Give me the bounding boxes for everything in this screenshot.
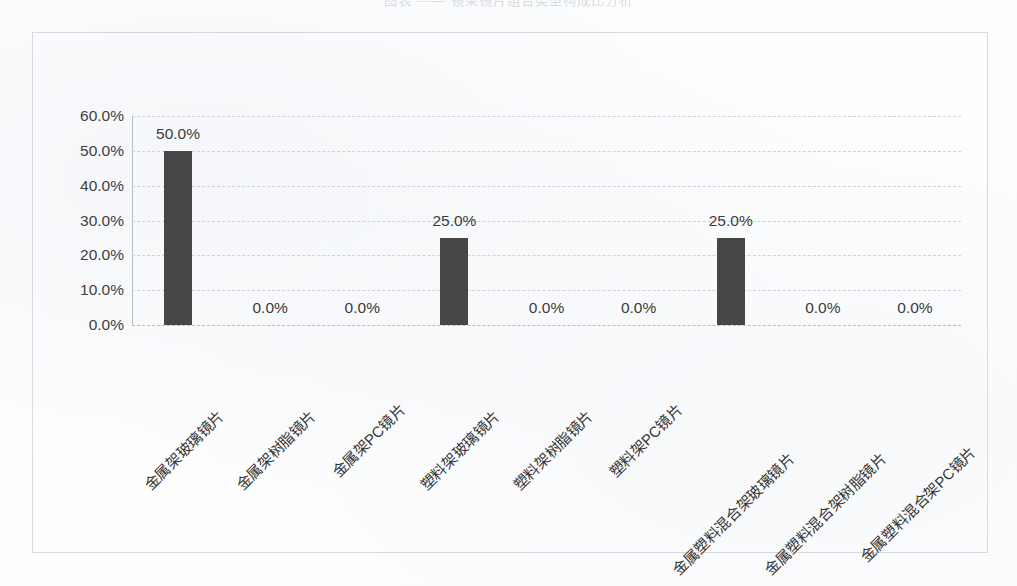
bar[interactable] (717, 238, 745, 325)
gridline (132, 186, 961, 187)
x-axis-category-label-text: 金属架树脂镜片 (231, 405, 320, 494)
bar[interactable] (164, 151, 192, 325)
x-axis-category-label-text: 塑料架PC镜片 (603, 399, 686, 482)
y-axis-tick-label: 60.0% (44, 107, 124, 125)
x-axis-category-label: 塑料架玻璃镜片 (485, 335, 574, 424)
gridline (132, 151, 961, 152)
gridline (132, 221, 961, 222)
x-axis-category-label-text: 塑料架树脂镜片 (507, 405, 596, 494)
y-axis-tick-label: 50.0% (44, 142, 124, 160)
bar-data-label: 50.0% (156, 125, 200, 143)
x-axis-category-label-text: 金属架PC镜片 (327, 399, 410, 482)
x-axis-category-label-text: 塑料架玻璃镜片 (415, 405, 504, 494)
x-axis-category-label: 塑料架PC镜片 (667, 335, 750, 418)
x-axis-category-label-text: 金属架玻璃镜片 (139, 405, 228, 494)
bar[interactable] (440, 238, 468, 325)
bar-data-label: 0.0% (897, 299, 932, 317)
bar-data-label: 0.0% (252, 299, 287, 317)
x-axis-category-label: 金属架玻璃镜片 (209, 335, 298, 424)
gridline (132, 255, 961, 256)
bar-data-label: 0.0% (529, 299, 564, 317)
bar-data-label: 0.0% (805, 299, 840, 317)
page-title: 图表 —— 镜架镜片组合类型构成比分析 (0, 0, 1017, 9)
x-axis-category-label: 塑料架树脂镜片 (577, 335, 666, 424)
bar-data-label: 0.0% (621, 299, 656, 317)
gridline (132, 116, 961, 117)
y-axis-tick-label: 30.0% (44, 212, 124, 230)
y-axis-tick-label: 0.0% (44, 316, 124, 334)
y-axis-tick-label: 40.0% (44, 177, 124, 195)
y-axis-tick-label: 10.0% (44, 281, 124, 299)
x-axis-category-labels: 金属架玻璃镜片金属架树脂镜片金属架PC镜片塑料架玻璃镜片塑料架树脂镜片塑料架PC… (132, 325, 961, 525)
gridline (132, 290, 961, 291)
bar-data-label: 25.0% (709, 212, 753, 230)
plot-area: 50.0%0.0%0.0%25.0%0.0%0.0%25.0%0.0%0.0% (132, 116, 961, 325)
x-axis-category-label: 金属架PC镜片 (390, 335, 473, 418)
x-axis-category-label: 金属架树脂镜片 (301, 335, 390, 424)
bar-data-label: 0.0% (345, 299, 380, 317)
y-axis-tick-label: 20.0% (44, 246, 124, 264)
bar-data-label: 25.0% (432, 212, 476, 230)
y-axis-tick-labels: 60.0%50.0%40.0%30.0%20.0%10.0%0.0% (40, 116, 124, 325)
